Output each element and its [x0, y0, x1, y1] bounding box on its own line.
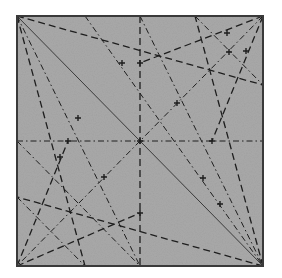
crease-pattern-diagram	[0, 0, 282, 278]
